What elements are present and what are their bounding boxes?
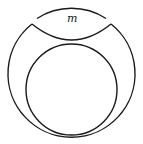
inner-circle bbox=[26, 44, 117, 135]
cap-lower-arc bbox=[32, 24, 111, 40]
cap-label: m bbox=[67, 12, 77, 25]
diagram-canvas: m bbox=[0, 0, 143, 144]
